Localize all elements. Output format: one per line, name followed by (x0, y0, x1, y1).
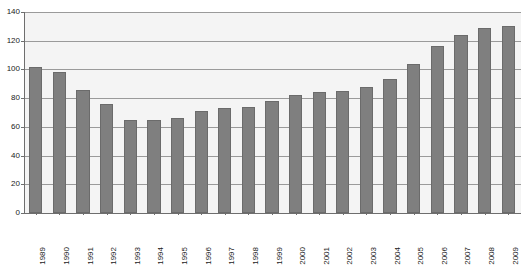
x-tick-mark-2005 (414, 213, 415, 215)
bar-2004 (383, 79, 396, 213)
bar-1990 (53, 72, 66, 213)
bar-1995 (171, 118, 184, 213)
x-tick-mark-1991 (83, 213, 84, 215)
y-tick-label-100: 100 (7, 65, 20, 73)
x-tick-mark-1994 (154, 213, 155, 215)
bar-slot (454, 12, 467, 213)
x-tick-mark-2002 (343, 213, 344, 215)
bar-slot (100, 12, 113, 213)
y-tick-label-40: 40 (11, 152, 20, 160)
bar-2007 (454, 35, 467, 213)
y-tick-label-140: 140 (7, 8, 20, 16)
bar-slot (53, 12, 66, 213)
bar-2006 (431, 46, 444, 213)
bar-1997 (218, 108, 231, 213)
y-axis: 020406080100120140 (0, 0, 24, 213)
y-tick-label-20: 20 (11, 180, 20, 188)
bar-slot (289, 12, 302, 213)
bar-2008 (478, 28, 491, 213)
bar-1993 (124, 120, 137, 213)
bar-2002 (336, 91, 349, 213)
x-tick-mark-1989 (36, 213, 37, 215)
bar-slot (242, 12, 255, 213)
x-tick-mark-1992 (107, 213, 108, 215)
bar-slot (478, 12, 491, 213)
bar-slot (502, 12, 515, 213)
x-tick-mark-1998 (248, 213, 249, 215)
x-tick-mark-2001 (319, 213, 320, 215)
bar-slot (383, 12, 396, 213)
bar-2005 (407, 64, 420, 213)
x-tick-mark-1999 (272, 213, 273, 215)
bar-slot (407, 12, 420, 213)
x-tick-mark-1996 (201, 213, 202, 215)
y-tick-label-120: 120 (7, 37, 20, 45)
bar-2003 (360, 87, 373, 213)
x-tick-mark-1993 (130, 213, 131, 215)
bar-slot (171, 12, 184, 213)
bar-1994 (147, 120, 160, 213)
y-tick-label-0: 0 (16, 209, 20, 217)
bar-1998 (242, 107, 255, 213)
x-tick-mark-2009 (508, 213, 509, 215)
bar-slot (124, 12, 137, 213)
bar-slot (360, 12, 373, 213)
bar-slot (313, 12, 326, 213)
bar-2001 (313, 92, 326, 213)
bars-layer (24, 12, 520, 213)
caption-strip (0, 252, 528, 263)
bar-1996 (195, 111, 208, 213)
y-tick-label-80: 80 (11, 94, 20, 102)
x-axis: 1989199019911992199319941995199619971998… (24, 215, 520, 249)
bar-slot (265, 12, 278, 213)
bar-slot (29, 12, 42, 213)
bar-1989 (29, 67, 42, 213)
bar-slot (195, 12, 208, 213)
bar-slot (431, 12, 444, 213)
x-tick-mark-2008 (485, 213, 486, 215)
bar-slot (336, 12, 349, 213)
bar-slot (76, 12, 89, 213)
x-tick-mark-2006 (437, 213, 438, 215)
x-tick-mark-2007 (461, 213, 462, 215)
x-tick-mark-1997 (225, 213, 226, 215)
x-tick-mark-2004 (390, 213, 391, 215)
bar-1991 (76, 90, 89, 213)
bar-1992 (100, 104, 113, 213)
bar-slot (218, 12, 231, 213)
x-tick-mark-2000 (296, 213, 297, 215)
x-tick-mark-2003 (366, 213, 367, 215)
y-tick-label-60: 60 (11, 123, 20, 131)
bar-2009 (502, 26, 515, 213)
x-tick-mark-1995 (178, 213, 179, 215)
bar-2000 (289, 95, 302, 213)
bar-1999 (265, 101, 278, 213)
x-tick-mark-1990 (59, 213, 60, 215)
bar-slot (147, 12, 160, 213)
